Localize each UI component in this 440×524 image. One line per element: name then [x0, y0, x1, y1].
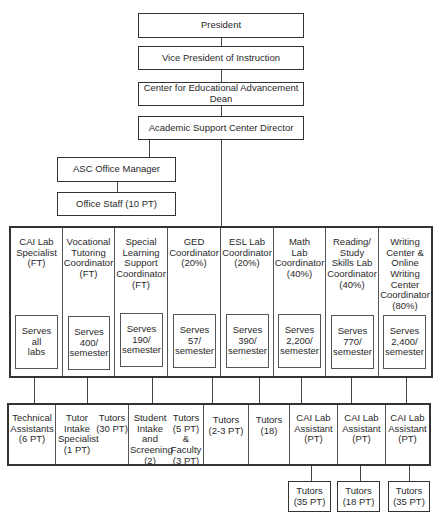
staff-cai-lab-assistant: CAI Lab Assistant (PT) [290, 405, 338, 464]
asc-office-manager-box: ASC Office Manager [57, 157, 176, 182]
connector-line [259, 378, 260, 403]
serves-box: Serves 2,200/ semester [278, 314, 321, 368]
office-staff-box: Office Staff (10 PT) [57, 192, 176, 216]
coordinator-reading-study-skills: Reading/ Study Skills Lab Coordinator (4… [326, 228, 379, 376]
connector-line [212, 378, 213, 403]
serves-box: Serves 770/ semester [331, 315, 374, 369]
staff-label: Tutors (2-3 PT) [204, 413, 248, 436]
connector-line [221, 106, 222, 116]
coordinator-title: Reading/ Study Skills Lab Coordinator (4… [326, 237, 378, 290]
tutors-box: Tutors (35 PT) [388, 481, 430, 512]
coordinator-title: ESL Lab Coordinator (20%) [221, 237, 273, 269]
connector-line [117, 182, 118, 192]
connector-line [351, 378, 352, 403]
staff-label: Tutors (5 PT) & Faculty (3 PT) [169, 413, 203, 466]
connector-line [152, 378, 153, 403]
coordinator-title: CAI Lab Specialist (FT) [11, 237, 62, 269]
staff-label: CAI Lab Assistant (PT) [338, 413, 385, 445]
coordinator-special-learning-support: Special Learning Support Coordinator (FT… [115, 228, 168, 376]
connector-line [149, 140, 150, 157]
tutors-box: Tutors (35 PT) [288, 481, 331, 512]
dean-box: Center for Educational Advancement Dean [138, 82, 304, 106]
director-box: Academic Support Center Director [138, 116, 304, 140]
coordinator-cai-lab-specialist: CAI Lab Specialist (FT) Serves all labs [11, 228, 63, 376]
coordinator-math-lab: Math Lab Coordinator (40%) Serves 2,200/… [274, 228, 326, 376]
staff-technical-assistants: Technical Assistants (6 PT) [9, 405, 56, 464]
staff-label: CAI Lab Assistant (PT) [386, 413, 429, 445]
coordinator-vocational-tutoring: Vocational Tutoring Coordinator (FT) Ser… [63, 228, 115, 376]
connector-line [87, 378, 88, 403]
staff-label: Student Intake and Screening (2) [130, 413, 170, 466]
coordinator-writing-center: Writing Center & Online Writing Center C… [379, 228, 431, 376]
connector-line [301, 378, 302, 403]
connector-line-main [221, 140, 222, 226]
president-label: President [201, 20, 241, 31]
serves-box: Serves 57/ semester [173, 314, 216, 368]
connector-line [409, 466, 410, 481]
serves-box: Serves 400/ semester [68, 316, 110, 370]
staff-vocational-group: Tutor Intake Specialist (1 PT) Tutors (3… [56, 405, 129, 464]
connector-line [360, 466, 361, 481]
serves-box: Serves 390/ semester [226, 314, 269, 368]
staff-label: Tutors (30 PT) [96, 413, 128, 434]
serves-box: Serves all labs [15, 315, 58, 369]
connector-line [221, 70, 222, 82]
dean-label: Center for Educational Advancement Dean [139, 83, 303, 105]
staff-row: Technical Assistants (6 PT) Tutor Intake… [7, 403, 431, 466]
connector-line [34, 378, 35, 403]
coordinator-title: Vocational Tutoring Coordinator (FT) [63, 237, 114, 280]
vp-instruction-box: Vice President of Instruction [138, 46, 304, 70]
staff-label: CAI Lab Assistant (PT) [290, 413, 337, 445]
coordinator-title: GED Coordinator (20%) [168, 237, 220, 269]
coordinator-esl-lab: ESL Lab Coordinator (20%) Serves 390/ se… [221, 228, 274, 376]
serves-box: Serves 2,400/ semester [383, 315, 426, 369]
coordinator-ged: GED Coordinator (20%) Serves 57/ semeste… [168, 228, 221, 376]
staff-label: Tutor Intake Specialist (1 PT) [58, 413, 96, 456]
president-box: President [138, 13, 304, 38]
coordinator-title: Writing Center & Online Writing Center C… [379, 237, 431, 311]
office-manager-label: ASC Office Manager [73, 164, 160, 175]
staff-special-learning-group: Student Intake and Screening (2) Tutors … [129, 405, 204, 464]
staff-cai-lab-assistant: CAI Lab Assistant (PT) [338, 405, 386, 464]
staff-esl-tutors: Tutors (18) [249, 405, 290, 464]
connector-line [406, 378, 407, 403]
coordinators-row: CAI Lab Specialist (FT) Serves all labs … [9, 226, 433, 378]
coordinator-title: Math Lab Coordinator (40%) [274, 237, 325, 280]
staff-cai-lab-assistant: CAI Lab Assistant (PT) [386, 405, 429, 464]
staff-label: Tutors (18) [249, 413, 289, 436]
staff-label: Technical Assistants (6 PT) [9, 413, 55, 445]
tutors-box: Tutors (18 PT) [337, 481, 380, 512]
coordinator-title: Special Learning Support Coordinator (FT… [115, 237, 167, 290]
vp-label: Vice President of Instruction [162, 53, 280, 64]
office-staff-label: Office Staff (10 PT) [76, 199, 157, 210]
connector-line [311, 466, 312, 481]
staff-ged-tutors: Tutors (2-3 PT) [204, 405, 249, 464]
connector-line [221, 38, 222, 46]
serves-box: Serves 190/ semester [120, 313, 163, 367]
director-label: Academic Support Center Director [149, 123, 294, 134]
